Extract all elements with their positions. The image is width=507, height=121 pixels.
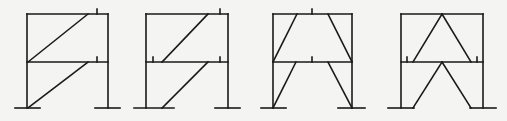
braced-frames-diagram (0, 0, 507, 121)
diagonal-brace (328, 62, 352, 108)
diagonal-brace (328, 14, 352, 62)
diagonal-brace (413, 62, 442, 108)
diagonal-brace (413, 14, 442, 62)
diagonal-brace (162, 62, 208, 108)
diagonal-brace (28, 62, 88, 108)
frame-1 (15, 9, 120, 108)
frame-2 (134, 9, 240, 108)
diagonal-brace (273, 62, 296, 108)
frame-4 (388, 14, 496, 108)
frame-3 (261, 9, 365, 108)
diagonal-brace (28, 14, 88, 62)
diagonal-brace (442, 14, 471, 62)
diagonal-brace (442, 62, 471, 108)
diagonal-brace (162, 14, 208, 62)
diagram-svg (0, 0, 507, 121)
diagonal-brace (273, 14, 297, 62)
